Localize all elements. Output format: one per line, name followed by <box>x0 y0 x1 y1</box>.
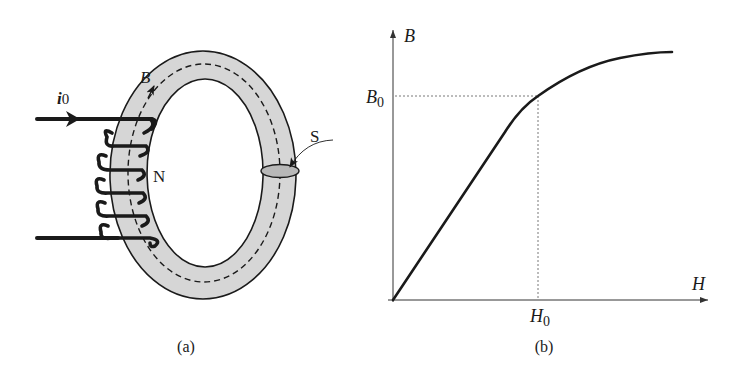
figure-b-bh-chart: B H B0 H0 (b) <box>366 26 708 356</box>
current-label: i0 <box>57 89 69 108</box>
field-label: B <box>140 68 151 87</box>
caption-a: (a) <box>177 338 195 356</box>
x-axis-label: H <box>691 274 706 294</box>
turns-label: N <box>153 167 165 186</box>
y-axis-label: B <box>404 26 415 46</box>
caption-b: (b) <box>535 338 554 356</box>
figure-a-toroid: i0 B N S (a) <box>37 51 333 356</box>
figure-canvas: i0 B N S (a) B H B0 H0 (b) <box>0 0 736 378</box>
cross-section-label: S <box>310 127 319 146</box>
bh-curve <box>393 52 672 300</box>
h0-label: H0 <box>529 306 550 329</box>
cross-section-ellipse <box>261 165 299 178</box>
b0-label: B0 <box>366 87 384 110</box>
